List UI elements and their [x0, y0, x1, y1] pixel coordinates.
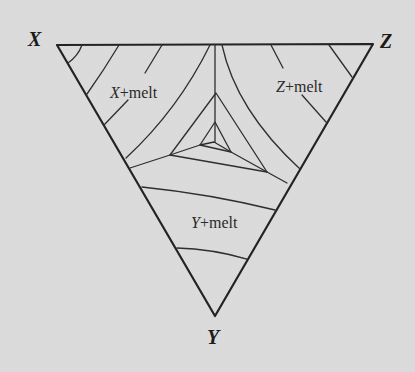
- ternary-diagram: X Z Y X+melt Z+melt Y+melt: [0, 0, 415, 372]
- field-label-y-melt: Y+melt: [191, 214, 238, 231]
- vertex-label-z: Z: [379, 30, 392, 52]
- field-label-z-melt: Z+melt: [276, 78, 323, 95]
- field-suffix: +melt: [200, 214, 238, 231]
- inner-triangle: [170, 122, 267, 172]
- field-suffix: +melt: [285, 78, 323, 95]
- vertex-label-y: Y: [207, 326, 221, 348]
- boundary-curves: [126, 45, 300, 169]
- field-suffix: +melt: [120, 84, 158, 101]
- field-label-x-melt: X+melt: [109, 84, 158, 101]
- vertex-label-x: X: [27, 28, 42, 50]
